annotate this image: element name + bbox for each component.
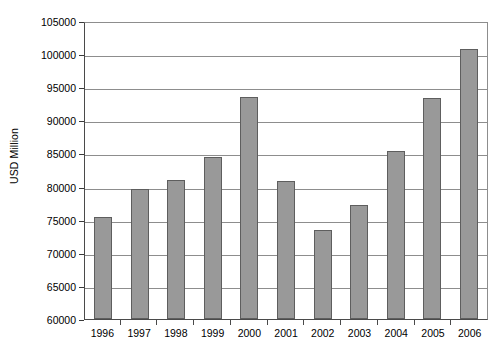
x-axis-tick-label: 1996 bbox=[84, 327, 121, 339]
bar-slot bbox=[341, 23, 378, 319]
y-axis-tick-label: 100000 bbox=[10, 49, 76, 61]
bar bbox=[131, 189, 149, 319]
bar-slot bbox=[450, 23, 487, 319]
x-axis-tick-label: 2006 bbox=[451, 327, 488, 339]
y-axis-tick-label: 75000 bbox=[10, 215, 76, 227]
bar bbox=[240, 97, 258, 319]
bar-slot bbox=[122, 23, 159, 319]
y-axis-tick-mark bbox=[79, 287, 84, 288]
bar-slot bbox=[231, 23, 268, 319]
bar-slot bbox=[195, 23, 232, 319]
bar bbox=[314, 230, 332, 319]
y-axis-tick-mark bbox=[79, 320, 84, 321]
bar-chart: USD Million 6000065000700007500080000850… bbox=[0, 0, 502, 354]
bar bbox=[350, 205, 368, 319]
y-axis-tick-mark bbox=[79, 22, 84, 23]
y-axis-tick-label: 65000 bbox=[10, 281, 76, 293]
y-axis-tick-label: 105000 bbox=[10, 16, 76, 28]
bar bbox=[277, 181, 295, 319]
y-axis-tick-mark bbox=[79, 154, 84, 155]
y-axis-tick-mark bbox=[79, 88, 84, 89]
x-axis-tick-label: 2001 bbox=[268, 327, 305, 339]
x-axis-tick-mark bbox=[84, 320, 121, 325]
plot-area bbox=[84, 22, 488, 320]
bar-slot bbox=[158, 23, 195, 319]
bars-layer bbox=[85, 23, 487, 319]
x-axis-tick-label: 2003 bbox=[341, 327, 378, 339]
bar bbox=[167, 180, 185, 319]
x-axis-tick-label: 2005 bbox=[415, 327, 452, 339]
y-axis-tick-label: 70000 bbox=[10, 248, 76, 260]
y-axis-tick-label: 95000 bbox=[10, 82, 76, 94]
bar-slot bbox=[377, 23, 414, 319]
y-axis-tick-label: 60000 bbox=[10, 314, 76, 326]
y-axis-tick-mark bbox=[79, 221, 84, 222]
x-axis-tick-mark bbox=[268, 320, 305, 325]
x-axis-tick-label: 1997 bbox=[121, 327, 158, 339]
x-axis-tick-label: 2004 bbox=[378, 327, 415, 339]
x-axis-tick-mark bbox=[121, 320, 158, 325]
bar-slot bbox=[85, 23, 122, 319]
x-axis-tick-mark bbox=[451, 320, 488, 325]
x-axis-tick-mark bbox=[157, 320, 194, 325]
y-axis-tick-mark bbox=[79, 254, 84, 255]
y-axis-tick-mark bbox=[79, 55, 84, 56]
y-axis-tick-mark bbox=[79, 188, 84, 189]
y-axis-tick-label: 90000 bbox=[10, 115, 76, 127]
bar bbox=[204, 157, 222, 319]
bar bbox=[387, 151, 405, 319]
bar-slot bbox=[414, 23, 451, 319]
x-axis-tick-mark bbox=[415, 320, 452, 325]
y-axis-tick-label: 85000 bbox=[10, 148, 76, 160]
x-axis-tick-mark bbox=[341, 320, 378, 325]
bar-slot bbox=[304, 23, 341, 319]
bar bbox=[423, 98, 441, 319]
x-axis-tick-mark bbox=[231, 320, 268, 325]
x-axis-tick-label: 2002 bbox=[304, 327, 341, 339]
x-axis-tick-label: 1999 bbox=[194, 327, 231, 339]
x-axis-tick-mark bbox=[304, 320, 341, 325]
x-axis-tick-label: 1998 bbox=[157, 327, 194, 339]
y-axis-tick-label: 80000 bbox=[10, 182, 76, 194]
y-axis-tick-labels: 6000065000700007500080000850009000095000… bbox=[10, 0, 76, 354]
x-axis-ticks bbox=[84, 320, 488, 325]
x-axis-tick-label: 2000 bbox=[231, 327, 268, 339]
bar-slot bbox=[268, 23, 305, 319]
bar bbox=[94, 217, 112, 319]
x-axis-tick-labels: 1996199719981999200020012002200320042005… bbox=[84, 327, 488, 339]
x-axis-tick-mark bbox=[378, 320, 415, 325]
bar bbox=[460, 49, 478, 319]
y-axis-tick-mark bbox=[79, 121, 84, 122]
x-axis-tick-mark bbox=[194, 320, 231, 325]
